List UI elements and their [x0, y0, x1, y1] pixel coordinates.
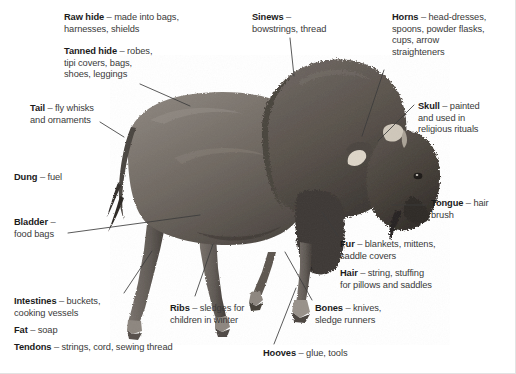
label-skull-line-1: and used in	[418, 113, 480, 125]
bison-body-group	[107, 55, 450, 345]
label-sinews-dash: –	[283, 12, 291, 22]
ear	[346, 142, 372, 155]
label-tongue-term: Tongue	[431, 198, 463, 208]
label-skull-dash: –	[440, 101, 450, 111]
label-raw-hide: Raw hide – made into bags, harnesses, sh…	[64, 12, 179, 35]
leader-ribs	[195, 244, 213, 296]
label-horns-line-0: head-dresses,	[428, 12, 486, 22]
label-tail-dash: –	[45, 103, 55, 113]
label-hooves: Hooves – glue, tools	[263, 348, 347, 360]
chest-fur	[295, 190, 344, 274]
label-tanned-hide-line-0: robes,	[127, 46, 152, 56]
label-skull: Skull – painted and used in religious ri…	[418, 101, 480, 136]
label-intestines-term: Intestines	[14, 296, 56, 306]
label-skull-term: Skull	[418, 101, 440, 111]
label-bones-dash: –	[343, 303, 353, 313]
label-bones-line-1: sledge runners	[315, 315, 381, 327]
label-fur-dash: –	[355, 239, 365, 249]
label-tail: Tail – fly whisks and ornaments	[30, 103, 94, 126]
horn-far	[383, 124, 404, 142]
label-tendons-line-0: strings, cord, sewing thread	[61, 342, 172, 352]
label-horns-line-1: spoons, powder flasks,	[392, 24, 486, 36]
label-tongue-dash: –	[463, 198, 473, 208]
leader-horns	[362, 70, 384, 136]
label-raw-hide-dash: –	[104, 12, 114, 22]
tail	[107, 127, 136, 232]
label-hooves-dash: –	[296, 348, 306, 358]
horn-near	[348, 150, 367, 166]
label-hooves-line-0: glue, tools	[306, 348, 347, 358]
label-hair-line-1: for pillows and saddles	[340, 280, 432, 292]
label-hooves-term: Hooves	[263, 348, 296, 358]
label-intestines: Intestines – buckets, cooking vessels	[14, 296, 100, 319]
label-fat-line-0: soap	[38, 325, 58, 335]
label-bladder-dash: –	[48, 217, 56, 227]
label-ribs-term: Ribs	[170, 303, 190, 313]
label-dung-dash: –	[37, 172, 47, 182]
label-raw-hide-line-0: made into bags,	[114, 12, 179, 22]
label-ribs: Ribs – sledges for children in winter	[170, 303, 244, 326]
label-bladder-term: Bladder	[14, 217, 48, 227]
label-fat-dash: –	[28, 325, 38, 335]
label-bladder: Bladder – food bags	[14, 217, 56, 240]
label-dung-term: Dung	[14, 172, 37, 182]
label-sinews-line-1: bowstrings, thread	[252, 24, 326, 36]
label-hair-line-0: string, stuffing	[368, 268, 424, 278]
label-horns-dash: –	[418, 12, 428, 22]
label-hair-term: Hair	[340, 268, 358, 278]
leader-sinews	[290, 38, 294, 76]
label-tendons-dash: –	[51, 342, 61, 352]
label-sinews: Sinews – bowstrings, thread	[252, 12, 326, 35]
label-dung-line-0: fuel	[47, 172, 62, 182]
label-fur-line-0: blankets, mittens,	[365, 239, 436, 249]
leader-bladder	[68, 215, 200, 233]
label-tongue-line-1: brush	[431, 210, 489, 222]
label-bones: Bones – knives, sledge runners	[315, 303, 381, 326]
leader-bones	[285, 252, 312, 300]
label-ribs-line-1: children in winter	[170, 315, 244, 327]
label-tanned-hide-line-2: shoes, leggings	[64, 69, 152, 81]
label-tendons-term: Tendons	[14, 342, 51, 352]
label-horns-term: Horns	[392, 12, 418, 22]
horns-and-ears	[346, 124, 407, 166]
label-tongue-line-0: hair	[473, 198, 488, 208]
leader-tanned-hide	[140, 84, 190, 106]
label-fur-line-1: saddle covers	[340, 251, 435, 263]
label-fur-term: Fur	[340, 239, 355, 249]
bison-torso	[128, 92, 313, 245]
label-tendons: Tendons – strings, cord, sewing thread	[14, 342, 173, 354]
hump-and-shoulder	[262, 59, 407, 218]
leader-fur	[322, 212, 338, 236]
leader-hooves	[274, 288, 296, 344]
label-fat: Fat – soap	[14, 325, 58, 337]
label-hair: Hair – string, stuffing for pillows and …	[340, 268, 432, 291]
label-fat-term: Fat	[14, 325, 28, 335]
label-tanned-hide-term: Tanned hide	[64, 46, 117, 56]
label-horns-line-3: straighteners	[392, 47, 486, 59]
label-ribs-dash: –	[190, 303, 200, 313]
eye	[414, 173, 423, 179]
front-legs	[249, 242, 312, 323]
label-sinews-term: Sinews	[252, 12, 283, 22]
label-tanned-hide: Tanned hide – robes, tipi covers, bags, …	[64, 46, 152, 81]
label-tanned-hide-dash: –	[117, 46, 127, 56]
bison-head	[367, 130, 441, 240]
label-intestines-line-0: buckets,	[67, 296, 101, 306]
label-bladder-line-1: food bags	[14, 229, 56, 241]
label-bones-line-0: knives,	[353, 303, 381, 313]
label-horns-line-2: cups, arrow	[392, 35, 486, 47]
label-dung: Dung – fuel	[14, 172, 62, 184]
label-intestines-line-1: cooking vessels	[14, 308, 100, 320]
bison-uses-diagram: Raw hide – made into bags, harnesses, sh…	[0, 0, 516, 374]
label-tail-line-1: and ornaments	[30, 115, 94, 127]
label-raw-hide-line-1: harnesses, shields	[64, 24, 179, 36]
leader-skull	[378, 105, 414, 141]
leader-intestines	[124, 251, 152, 293]
label-tanned-hide-line-1: tipi covers, bags,	[64, 58, 152, 70]
label-intestines-dash: –	[56, 296, 66, 306]
label-bones-term: Bones	[315, 303, 343, 313]
texture-overlay	[110, 55, 450, 345]
label-tail-term: Tail	[30, 103, 45, 113]
label-tail-line-0: fly whisks	[55, 103, 94, 113]
label-hair-dash: –	[358, 268, 368, 278]
